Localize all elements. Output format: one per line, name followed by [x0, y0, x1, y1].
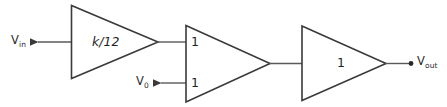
- block-label-gain: k/12: [92, 36, 119, 49]
- diagram-canvas: [0, 0, 447, 107]
- block-label-summing-bottom: 1: [191, 77, 199, 90]
- terminal-label-output-main: V: [417, 54, 425, 68]
- terminal-label-offset-main: V: [136, 74, 144, 88]
- block-label-unity: 1: [337, 57, 345, 70]
- terminal-label-input: Vin: [11, 35, 26, 47]
- terminal-label-offset-subscript: 0: [144, 81, 149, 90]
- block-diagram: Vin V0 Vout k/12 1 1 1: [0, 0, 447, 107]
- terminal-label-input-subscript: in: [19, 40, 26, 49]
- terminal-label-input-main: V: [11, 33, 19, 47]
- terminal-label-output-subscript: out: [425, 61, 438, 70]
- arrowhead-input-icon: [30, 38, 39, 46]
- output-node-dot-icon: [409, 61, 414, 66]
- arrowhead-offset-icon: [153, 79, 162, 87]
- terminal-label-output: Vout: [417, 56, 438, 68]
- block-label-summing-top: 1: [191, 36, 199, 49]
- terminal-label-offset: V0: [136, 76, 149, 88]
